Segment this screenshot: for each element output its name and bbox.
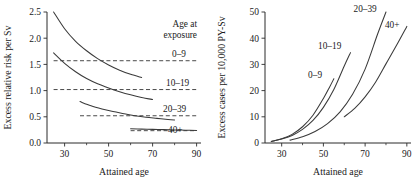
x-tick-label: 30 [60,149,70,159]
y-tick-label: 30 [250,60,260,70]
curve-20–39 [290,12,386,140]
curve-0–9 [271,79,334,142]
curve-40+ [131,129,197,131]
left-legend: Age at exposure 0–9 10–19 20–39 40+ [163,19,197,135]
y-tick-label: 50 [250,7,260,17]
figure-container: 0.00.51.01.52.02.530507090 Attained age … [0,0,420,184]
legend-entry-20-39: 20–39 [163,104,187,114]
x-tick-label: 30 [277,149,287,159]
right-x-ticks [282,143,407,147]
right-curves [271,12,407,141]
x-tick-label: 90 [192,149,202,159]
curve-label-40+: 40+ [385,20,400,30]
left-chart-svg: 0.00.51.01.52.02.530507090 Attained age … [0,0,210,184]
y-tick-label: 0.5 [29,112,41,122]
curve-20–39 [80,102,175,120]
legend-title-line1: Age at [172,19,197,29]
curve-label-10–19: 10–19 [318,41,342,51]
curve-10–19 [271,53,350,142]
legend-entry-40plus: 40+ [168,125,183,135]
right-curve-labels: 0–910–1920–3940+ [308,4,399,80]
left-y-ticks [44,12,48,143]
curve-label-0–9: 0–9 [308,70,322,80]
chart-panel-left: 0.00.51.01.52.02.530507090 Attained age … [0,0,210,184]
y-tick-label: 2.0 [29,34,41,44]
x-tick-label: 50 [319,149,329,159]
left-x-axis-title: Attained age [99,166,149,177]
x-tick-label: 70 [148,149,158,159]
y-tick-label: 20 [250,86,260,96]
left-x-ticks [65,143,197,147]
right-y-axis-title: Excess cases per 10,000 PY-Sv [216,16,227,138]
y-tick-label: 2.5 [29,7,41,17]
legend-title-line2: exposure [163,30,197,40]
legend-entry-0-9: 0–9 [172,49,186,59]
right-axes [265,12,411,143]
right-tick-labels: 0102030405030507090 [250,7,412,159]
left-y-axis-title: Excess relative risk per Sv [2,25,13,129]
curve-0–9 [54,12,142,78]
right-y-ticks [262,12,266,143]
y-tick-label: 1.5 [29,60,41,70]
x-tick-label: 50 [104,149,114,159]
curve-label-20–39: 20–39 [353,4,377,14]
y-tick-label: 10 [250,112,260,122]
right-x-axis-title: Attained age [313,166,363,177]
y-tick-label: 0 [254,138,259,148]
right-chart-svg: 0102030405030507090 0–910–1920–3940+ Att… [210,0,420,184]
x-tick-label: 90 [402,149,412,159]
y-tick-label: 40 [250,34,260,44]
y-tick-label: 0.0 [29,138,41,148]
chart-panel-right: 0102030405030507090 0–910–1920–3940+ Att… [210,0,420,184]
y-tick-label: 1.0 [29,86,41,96]
x-tick-label: 70 [360,149,370,159]
legend-entry-10-19: 10–19 [166,78,190,88]
